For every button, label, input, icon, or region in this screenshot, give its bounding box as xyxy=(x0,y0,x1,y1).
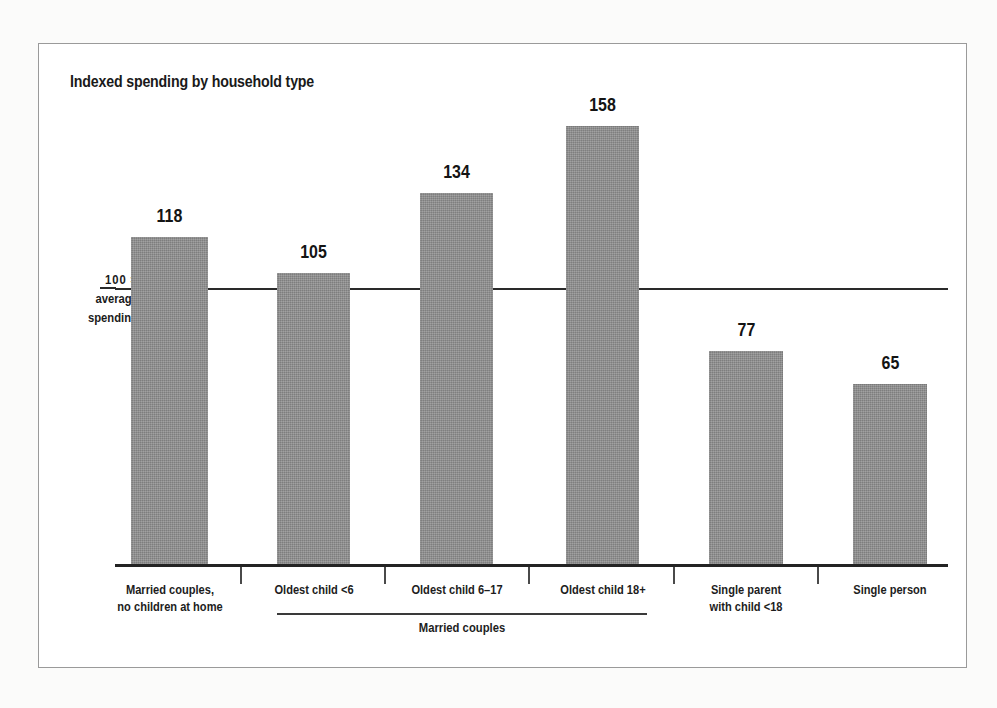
bar-value-label: 65 xyxy=(856,352,924,374)
axis-tick xyxy=(384,567,386,584)
group-bracket-line xyxy=(277,613,647,615)
bar-value-label: 158 xyxy=(568,94,636,116)
axis-note: 100 = average spending xyxy=(69,270,138,327)
category-label-line: Oldest child <6 xyxy=(257,582,371,599)
group-bracket-label: Married couples xyxy=(299,620,625,635)
chart-page: Indexed spending by household type 100 =… xyxy=(0,0,997,708)
reference-line-100 xyxy=(115,288,948,290)
bar-value-label: 105 xyxy=(279,241,347,263)
category-label-oldest-child-18-plus: Oldest child 18+ xyxy=(546,582,660,599)
bar-value-label: 134 xyxy=(422,161,490,183)
axis-tick xyxy=(673,567,675,584)
category-label-line: Married couples, xyxy=(114,582,227,599)
category-label-oldest-child-under-6: Oldest child <6 xyxy=(257,582,371,599)
category-label-oldest-child-6-17: Oldest child 6–17 xyxy=(400,582,514,599)
bar-oldest-child-18-plus[interactable] xyxy=(566,126,639,564)
axis-note-line-3: spending xyxy=(69,308,138,327)
axis-tick xyxy=(528,567,530,584)
plot-area: 100 = average spending 118 105 134 158 7… xyxy=(0,0,997,708)
bar-oldest-child-6-17[interactable] xyxy=(420,193,493,564)
category-label-line: with child <18 xyxy=(689,599,803,616)
category-label-single-person: Single person xyxy=(833,582,947,599)
axis-tick xyxy=(817,567,819,584)
bar-single-parent[interactable] xyxy=(709,351,783,564)
bar-value-label: 77 xyxy=(712,319,780,341)
category-label-line: Oldest child 6–17 xyxy=(400,582,514,599)
category-label-line: Single person xyxy=(833,582,947,599)
category-label-line: Oldest child 18+ xyxy=(546,582,660,599)
axis-note-line-2: average xyxy=(69,289,138,308)
category-label-line: Single parent xyxy=(689,582,803,599)
bar-value-label: 118 xyxy=(135,205,203,227)
axis-tick xyxy=(240,567,242,584)
category-label-single-parent: Single parent with child <18 xyxy=(689,582,803,616)
bar-married-no-children[interactable] xyxy=(131,237,208,564)
bar-single-person[interactable] xyxy=(853,384,927,564)
category-label-line: no children at home xyxy=(114,599,227,616)
bar-oldest-child-under-6[interactable] xyxy=(277,273,350,564)
category-label-married-no-children: Married couples, no children at home xyxy=(114,582,227,616)
axis-note-line-1: 100 = xyxy=(69,270,138,289)
